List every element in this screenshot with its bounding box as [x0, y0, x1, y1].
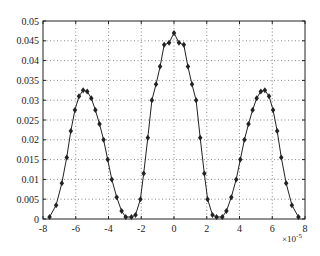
diamond-marker-icon: [105, 157, 110, 163]
x-tick-label: -4: [104, 223, 112, 234]
diamond-marker-icon: [133, 212, 138, 218]
y-tick-label: 0.03: [22, 95, 40, 106]
diamond-marker-icon: [73, 107, 78, 113]
y-tick-label: 0.015: [17, 154, 40, 165]
y-axis: 00.0050.010.0150.020.0250.030.0350.040.0…: [17, 16, 306, 225]
x-tick-label: -2: [137, 223, 145, 234]
diamond-marker-icon: [205, 196, 210, 202]
diamond-marker-icon: [162, 42, 167, 48]
y-tick-label: 0.04: [22, 55, 40, 66]
y-tick-label: 0.005: [17, 194, 40, 205]
diamond-marker-icon: [194, 97, 199, 103]
diamond-marker-icon: [202, 170, 207, 176]
diamond-marker-icon: [271, 107, 276, 113]
line-chart: 00.0050.010.0150.020.0250.030.0350.040.0…: [0, 0, 320, 256]
diamond-marker-icon: [101, 137, 106, 143]
x-multiplier-label: ×10-5: [282, 232, 302, 244]
y-tick-label: 0.045: [17, 35, 40, 46]
diamond-marker-icon: [114, 194, 119, 200]
diamond-marker-icon: [210, 212, 215, 218]
diamond-marker-icon: [93, 107, 98, 113]
diamond-marker-icon: [190, 81, 195, 87]
diamond-marker-icon: [138, 196, 143, 202]
diamond-marker-icon: [150, 97, 155, 103]
diamond-marker-icon: [97, 121, 102, 127]
diamond-marker-icon: [198, 135, 203, 141]
x-tick-label: 8: [303, 223, 308, 234]
diamond-marker-icon: [279, 155, 284, 161]
x-tick-label: 4: [237, 223, 242, 234]
y-tick-label: 0.025: [17, 115, 40, 126]
x-tick-label: 6: [270, 223, 275, 234]
diamond-marker-icon: [234, 176, 239, 182]
x-tick-label: -8: [39, 223, 47, 234]
diamond-marker-icon: [154, 81, 159, 87]
diamond-marker-icon: [250, 107, 255, 113]
diamond-marker-icon: [186, 64, 191, 70]
diamond-marker-icon: [284, 180, 289, 186]
diamond-marker-icon: [246, 121, 251, 127]
x-tick-label: -6: [72, 223, 80, 234]
y-tick-label: 0.01: [22, 174, 40, 185]
y-tick-label: 0.035: [17, 75, 40, 86]
grid-lines: [43, 21, 305, 219]
x-tick-label: 2: [204, 223, 209, 234]
diamond-marker-icon: [69, 128, 74, 134]
diamond-marker-icon: [146, 135, 151, 141]
diamond-marker-icon: [242, 137, 247, 143]
x-tick-label: 0: [172, 223, 177, 234]
y-tick-label: 0.02: [22, 134, 40, 145]
diamond-marker-icon: [238, 157, 243, 163]
diamond-marker-icon: [60, 180, 65, 186]
y-tick-label: 0.05: [22, 16, 40, 27]
diamond-marker-icon: [182, 42, 187, 48]
diamond-marker-icon: [141, 170, 146, 176]
diamond-marker-icon: [275, 128, 280, 134]
x-axis: -8-6-4-202468: [39, 21, 308, 234]
diamond-marker-icon: [158, 64, 163, 70]
diamond-marker-icon: [110, 176, 115, 182]
data-series: [47, 30, 300, 220]
